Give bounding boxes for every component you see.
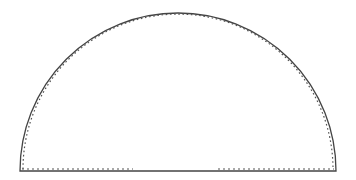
semicircle-drawing — [0, 0, 356, 180]
semicircle-figure — [0, 0, 356, 180]
semicircle-outline — [20, 13, 336, 171]
dotted-arc-trace — [23, 14, 333, 169]
